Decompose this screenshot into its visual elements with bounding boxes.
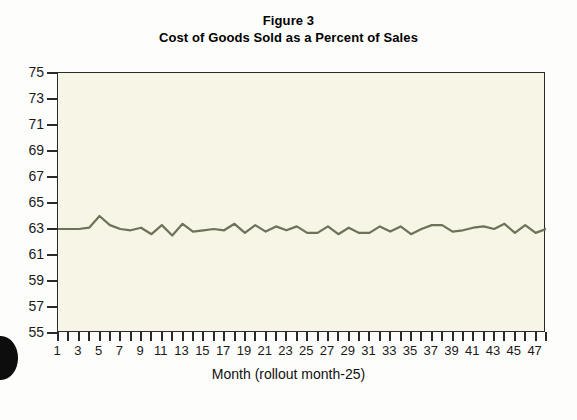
x-tick-mark-21: [265, 332, 267, 341]
x-tick-label-33: 33: [382, 343, 396, 358]
x-tick-mark-28: [337, 332, 339, 341]
x-tick-label-23: 23: [278, 343, 292, 358]
x-tick-mark-36: [420, 332, 422, 341]
x-tick-mark-35: [410, 332, 412, 341]
series-cogs-percent-of-sales: [58, 216, 546, 236]
x-tick-mark-17: [223, 332, 225, 341]
x-tick-mark-32: [379, 332, 381, 341]
x-tick-label-11: 11: [154, 343, 168, 358]
x-tick-label-25: 25: [299, 343, 313, 358]
x-tick-mark-46: [524, 332, 526, 341]
x-tick-mark-5: [99, 332, 101, 341]
figure-number: Figure 3: [0, 12, 577, 29]
plot-area: [57, 72, 545, 332]
x-tick-mark-42: [483, 332, 485, 341]
x-tick-mark-16: [213, 332, 215, 341]
figure-canvas: Figure 3 Cost of Goods Sold as a Percent…: [0, 0, 577, 420]
x-tick-mark-13: [182, 332, 184, 341]
y-tick-mark-69: [47, 150, 57, 152]
x-tick-label-43: 43: [486, 343, 500, 358]
x-tick-label-47: 47: [527, 343, 541, 358]
x-tick-mark-3: [78, 332, 80, 341]
x-tick-mark-39: [452, 332, 454, 341]
x-tick-label-41: 41: [465, 343, 479, 358]
x-tick-mark-29: [348, 332, 350, 341]
x-tick-label-21: 21: [257, 343, 271, 358]
y-tick-mark-65: [47, 202, 57, 204]
x-tick-label-35: 35: [403, 343, 417, 358]
y-axis-ticks: [0, 72, 57, 332]
x-tick-mark-19: [244, 332, 246, 341]
x-tick-label-9: 9: [136, 343, 143, 358]
x-tick-mark-34: [400, 332, 402, 341]
figure-title-block: Figure 3 Cost of Goods Sold as a Percent…: [0, 12, 577, 46]
x-tick-mark-24: [296, 332, 298, 341]
x-tick-mark-14: [192, 332, 194, 341]
x-tick-label-37: 37: [424, 343, 438, 358]
x-tick-label-1: 1: [53, 343, 60, 358]
x-tick-mark-2: [67, 332, 69, 341]
x-tick-mark-23: [285, 332, 287, 341]
x-tick-label-7: 7: [116, 343, 123, 358]
y-tick-mark-75: [47, 72, 57, 74]
x-tick-mark-30: [358, 332, 360, 341]
series-line-chart: [58, 73, 546, 333]
figure-title: Cost of Goods Sold as a Percent of Sales: [0, 29, 577, 46]
x-tick-mark-11: [161, 332, 163, 341]
x-tick-mark-40: [462, 332, 464, 341]
x-tick-mark-48: [545, 332, 547, 341]
y-tick-mark-63: [47, 228, 57, 230]
x-tick-mark-20: [254, 332, 256, 341]
y-tick-mark-67: [47, 176, 57, 178]
x-tick-label-5: 5: [95, 343, 102, 358]
x-tick-mark-12: [171, 332, 173, 341]
x-tick-label-19: 19: [237, 343, 251, 358]
x-tick-mark-47: [535, 332, 537, 341]
x-tick-label-3: 3: [74, 343, 81, 358]
y-tick-mark-73: [47, 98, 57, 100]
x-tick-mark-45: [514, 332, 516, 341]
x-axis-ticks: [57, 332, 549, 342]
x-tick-label-13: 13: [174, 343, 188, 358]
x-tick-mark-10: [150, 332, 152, 341]
x-tick-label-31: 31: [361, 343, 375, 358]
x-tick-mark-43: [493, 332, 495, 341]
x-tick-mark-9: [140, 332, 142, 341]
y-tick-mark-61: [47, 254, 57, 256]
x-tick-label-17: 17: [216, 343, 230, 358]
y-tick-mark-71: [47, 124, 57, 126]
x-tick-label-45: 45: [507, 343, 521, 358]
x-tick-mark-4: [88, 332, 90, 341]
x-tick-mark-27: [327, 332, 329, 341]
x-tick-label-15: 15: [195, 343, 209, 358]
x-tick-mark-26: [317, 332, 319, 341]
x-tick-mark-1: [57, 332, 59, 341]
x-tick-mark-6: [109, 332, 111, 341]
x-axis-title: Month (rollout month-25): [0, 366, 577, 383]
x-tick-label-39: 39: [444, 343, 458, 358]
x-tick-mark-37: [431, 332, 433, 341]
y-tick-mark-55: [47, 332, 57, 334]
x-tick-mark-8: [130, 332, 132, 341]
x-tick-mark-38: [441, 332, 443, 341]
x-tick-mark-33: [389, 332, 391, 341]
x-tick-mark-44: [503, 332, 505, 341]
x-tick-mark-41: [472, 332, 474, 341]
y-tick-mark-59: [47, 280, 57, 282]
x-tick-label-29: 29: [340, 343, 354, 358]
x-tick-mark-18: [234, 332, 236, 341]
x-tick-mark-25: [306, 332, 308, 341]
x-tick-mark-15: [202, 332, 204, 341]
y-tick-mark-57: [47, 306, 57, 308]
x-tick-mark-31: [368, 332, 370, 341]
x-tick-label-27: 27: [320, 343, 334, 358]
x-tick-mark-22: [275, 332, 277, 341]
x-axis-labels: 1357911131517192123252729313335373941434…: [57, 343, 549, 363]
x-tick-mark-7: [119, 332, 121, 341]
